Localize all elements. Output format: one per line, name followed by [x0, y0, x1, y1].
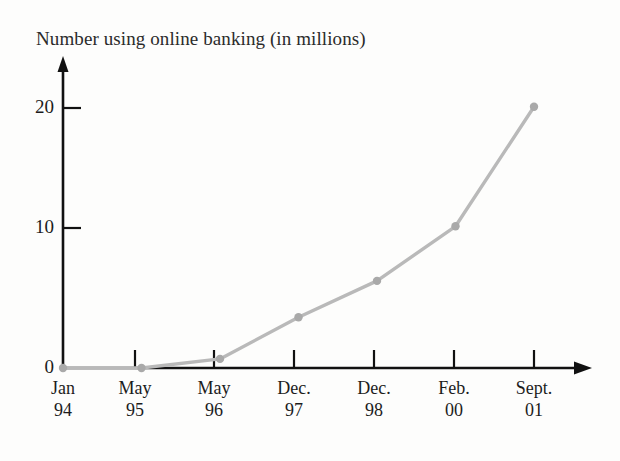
- data-point-may-96: [216, 355, 224, 363]
- x-label-month: Feb.: [409, 378, 499, 400]
- y-axis-tick-label-20: 20: [14, 96, 54, 118]
- x-axis-tick-label-sept-01: Sept. 01: [489, 378, 579, 422]
- data-point-dec-98: [373, 277, 381, 285]
- x-label-year: 97: [249, 400, 339, 422]
- data-point-feb-00: [451, 222, 459, 230]
- data-point-dec-97: [294, 313, 302, 321]
- x-axis-arrowhead-icon: [574, 362, 592, 375]
- data-point-jan-94: [59, 364, 67, 372]
- x-label-month: May: [90, 378, 180, 400]
- x-label-month: Sept.: [489, 378, 579, 400]
- data-point-sept-01: [530, 103, 538, 111]
- x-label-year: 01: [489, 400, 579, 422]
- x-label-year: 00: [409, 400, 499, 422]
- x-axis-tick-label-feb-00: Feb. 00: [409, 378, 499, 422]
- data-line-series: [63, 107, 534, 368]
- data-point-may-95: [137, 364, 145, 372]
- x-label-month: May: [169, 378, 259, 400]
- x-label-year: 96: [169, 400, 259, 422]
- x-axis-tick-label-may-95: May 95: [90, 378, 180, 422]
- x-label-month: Dec.: [329, 378, 419, 400]
- x-label-month: Dec.: [249, 378, 339, 400]
- x-axis-tick-label-may-96: May 96: [169, 378, 259, 422]
- x-label-year: 98: [329, 400, 419, 422]
- data-point-markers: [59, 103, 538, 373]
- x-label-year: 95: [90, 400, 180, 422]
- y-axis-tick-label-0: 0: [14, 356, 54, 378]
- y-axis-tick-label-10: 10: [14, 216, 54, 238]
- x-axis-tick-label-dec-97: Dec. 97: [249, 378, 339, 422]
- chart-figure: Number using online banking (in millions…: [0, 0, 620, 461]
- x-axis-tick-label-dec-98: Dec. 98: [329, 378, 419, 422]
- y-axis-arrowhead-icon: [58, 56, 69, 72]
